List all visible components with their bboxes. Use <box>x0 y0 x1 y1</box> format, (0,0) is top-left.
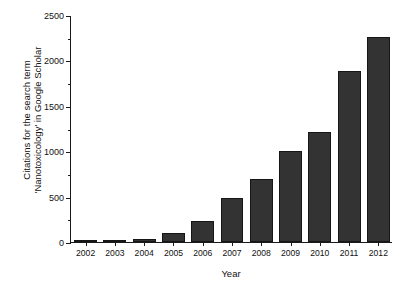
x-axis-tick-label: 2007 <box>222 248 241 258</box>
y-axis-tick-label: 500 <box>49 193 64 202</box>
x-axis-tick-label: 2003 <box>105 248 124 258</box>
x-axis-tick-label: 2005 <box>164 248 183 258</box>
y-axis-tick-label: 2000 <box>44 57 64 66</box>
x-axis-tick-label: 2009 <box>281 248 300 258</box>
x-axis-tick <box>320 242 321 246</box>
bar-2005 <box>162 233 185 242</box>
x-axis-tick-label: 2006 <box>193 248 212 258</box>
y-axis-tick-label: 0 <box>59 239 64 248</box>
x-axis-tick-label: 2012 <box>369 248 388 258</box>
bar-2009 <box>279 151 302 242</box>
bars-layer <box>71 16 392 242</box>
x-axis-tick-label: 2011 <box>340 248 358 258</box>
citations-bar-chart: Citations for the search term 'Nanotoxic… <box>0 0 403 291</box>
x-axis-tick <box>349 242 350 246</box>
bar-2012 <box>367 37 390 242</box>
x-axis-tick <box>86 242 87 246</box>
y-axis-tick-label: 1000 <box>44 148 64 157</box>
x-axis-tick <box>203 242 204 246</box>
x-axis-title: Year <box>70 268 392 279</box>
x-axis-tick <box>232 242 233 246</box>
y-axis-title-line-1: Citations for the search term <box>21 60 32 179</box>
x-axis-tick <box>144 242 145 246</box>
plot-area: 05001000150020002500 2002200320042005200… <box>70 16 392 243</box>
y-axis-title: Citations for the search term 'Nanotoxic… <box>14 0 50 240</box>
bar-2006 <box>191 221 214 242</box>
x-axis-tick <box>378 242 379 246</box>
y-axis-title-line-2: 'Nanotoxicology' in Google Scholar <box>32 47 43 194</box>
bar-2007 <box>221 198 244 242</box>
x-axis-tick <box>291 242 292 246</box>
x-axis-tick <box>261 242 262 246</box>
y-axis-tick-label: 1500 <box>44 102 64 111</box>
bar-2010 <box>308 132 331 242</box>
x-axis-tick-label: 2010 <box>310 248 329 258</box>
bar-2011 <box>338 71 361 242</box>
x-axis-tick <box>173 242 174 246</box>
bar-2008 <box>250 179 273 242</box>
x-axis-tick-label: 2008 <box>252 248 271 258</box>
x-axis-tick-label: 2004 <box>135 248 154 258</box>
y-axis-tick-label: 2500 <box>44 12 64 21</box>
x-axis-tick <box>115 242 116 246</box>
y-axis-major-tick <box>66 243 71 244</box>
x-axis-tick-label: 2002 <box>76 248 95 258</box>
